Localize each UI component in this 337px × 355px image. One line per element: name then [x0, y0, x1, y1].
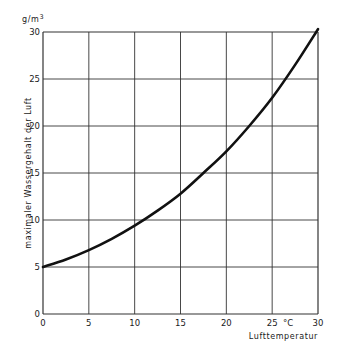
y-tick-label: 5 — [35, 262, 40, 272]
y-axis-title: maximaler Wassergehalt der Luft — [24, 97, 33, 249]
y-tick-label: 0 — [35, 309, 40, 319]
x-axis-ticks: 051015202530 — [40, 318, 323, 328]
y-unit-label: g/m3 — [22, 13, 44, 24]
x-unit-label: °C — [283, 318, 293, 328]
x-tick-label: 10 — [129, 318, 140, 328]
x-tick-label: 25 — [267, 318, 278, 328]
x-tick-label: 20 — [221, 318, 232, 328]
grid-lines — [43, 32, 318, 314]
x-tick-label: 15 — [175, 318, 186, 328]
y-tick-label: 30 — [29, 27, 40, 37]
x-tick-label: 0 — [40, 318, 45, 328]
y-tick-label: 25 — [29, 74, 40, 84]
x-tick-label: 30 — [313, 318, 324, 328]
chart: 051015202530 051015202530 g/m3 °C Luftte… — [0, 0, 337, 355]
x-tick-label: 5 — [86, 318, 91, 328]
x-axis-title: Lufttemperatur — [249, 332, 318, 341]
